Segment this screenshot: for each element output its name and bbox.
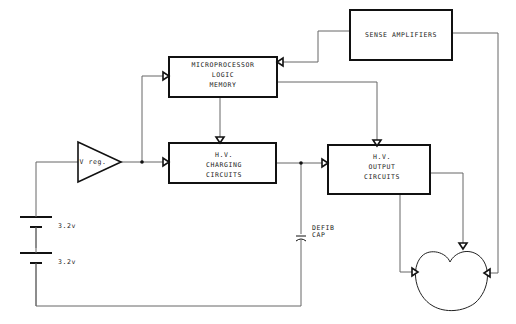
battery-1-label: 3.2v xyxy=(58,222,76,230)
heart-block[interactable] xyxy=(415,251,487,310)
hv-output-block[interactable]: H.V. OUTPUT CIRCUITS xyxy=(328,145,430,194)
wire-micro-to-output xyxy=(277,82,377,140)
microprocessor-block[interactable]: MICROPROCESSOR LOGIC MEMORY xyxy=(169,57,277,97)
memory-label: MEMORY xyxy=(209,81,236,89)
logic-label: LOGIC xyxy=(212,71,235,79)
hv-charging-block[interactable]: H.V. CHARGING CIRCUITS xyxy=(169,143,276,183)
wire-output-to-heart-top xyxy=(430,173,463,243)
junction-dot xyxy=(140,160,144,164)
microprocessor-label: MICROPROCESSOR xyxy=(191,61,254,69)
battery-2-label: 3.2v xyxy=(58,258,76,266)
wire-output-to-heart-left xyxy=(400,195,412,272)
battery-1: 3.2v xyxy=(20,217,76,230)
wire-vreg-to-microprocessor xyxy=(142,76,163,162)
defib-cap-line2: CAP xyxy=(312,231,326,239)
hv-output-line1: H.V. xyxy=(373,153,391,161)
hv-charging-line3: CIRCUITS xyxy=(206,171,242,179)
wire-battery-to-ground xyxy=(36,240,301,306)
hv-output-line3: CIRCUITS xyxy=(364,173,400,181)
hv-charging-line2: CHARGING xyxy=(206,161,242,169)
v-reg-block[interactable]: V reg. xyxy=(78,142,121,182)
sense-amplifiers-label: SENSE AMPLIFIERS xyxy=(365,31,437,39)
wire-heart-to-sense xyxy=(452,33,498,273)
v-reg-label: V reg. xyxy=(79,158,106,166)
defib-capacitor: DEFIB CAP xyxy=(296,224,335,241)
junction-dot xyxy=(299,161,303,165)
arrow-into-heart-top xyxy=(459,243,467,249)
battery-2: 3.2v xyxy=(20,253,76,266)
wire-vreg-to-battery xyxy=(36,162,78,210)
wire-sense-to-micro xyxy=(283,31,350,62)
hv-output-line2: OUTPUT xyxy=(368,163,395,171)
hv-charging-line1: H.V. xyxy=(215,151,233,159)
defibrillator-block-diagram: SENSE AMPLIFIERS MICROPROCESSOR LOGIC ME… xyxy=(0,0,516,324)
sense-amplifiers-block[interactable]: SENSE AMPLIFIERS xyxy=(350,10,452,60)
